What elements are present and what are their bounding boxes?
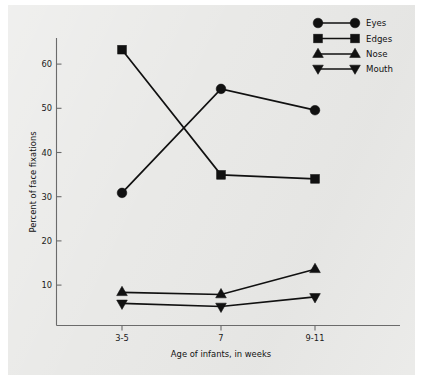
series-eyes bbox=[117, 84, 320, 198]
triangle-down-marker bbox=[117, 300, 128, 309]
y-tick-label: 50 bbox=[41, 103, 52, 113]
y-tick-label: 30 bbox=[41, 192, 52, 202]
series-nose bbox=[117, 263, 321, 298]
legend-item-eyes[interactable]: Eyes bbox=[313, 18, 387, 28]
legend-item-mouth[interactable]: Mouth bbox=[313, 64, 393, 74]
x-tick-label: 9-11 bbox=[306, 333, 325, 343]
triangle-up-marker bbox=[117, 286, 128, 295]
legend-label-eyes: Eyes bbox=[366, 18, 387, 28]
x-tick-label: 7 bbox=[218, 333, 223, 343]
square-marker bbox=[311, 175, 320, 184]
square-marker bbox=[118, 45, 127, 54]
legend-label-nose: Nose bbox=[366, 49, 387, 59]
legend-item-nose[interactable]: Nose bbox=[313, 48, 388, 59]
legend-item-edges[interactable]: Edges bbox=[314, 34, 393, 44]
series-edges-line bbox=[122, 50, 315, 179]
y-tick-group: 10 20 30 40 50 60 bbox=[41, 59, 61, 290]
x-axis-title: Age of infants, in weeks bbox=[171, 349, 271, 359]
circle-marker bbox=[310, 105, 320, 115]
triangle-up-marker bbox=[350, 48, 361, 57]
square-marker bbox=[314, 34, 323, 43]
circle-marker bbox=[216, 84, 226, 94]
triangle-down-marker bbox=[216, 303, 227, 312]
circle-marker bbox=[350, 18, 360, 28]
circle-marker bbox=[117, 188, 127, 198]
triangle-up-marker bbox=[310, 263, 321, 272]
x-tick-group: 3-5 7 9-11 bbox=[115, 326, 324, 344]
series-nose-line bbox=[122, 269, 315, 294]
square-marker bbox=[217, 171, 226, 180]
axes-group bbox=[57, 38, 401, 326]
line-chart: 10 20 30 40 50 60 3-5 7 9-11 Age of infa… bbox=[0, 0, 423, 384]
circle-marker bbox=[313, 18, 323, 28]
triangle-up-marker bbox=[313, 48, 324, 57]
triangle-down-marker bbox=[310, 294, 321, 303]
y-tick-label: 10 bbox=[41, 280, 52, 290]
y-tick-label: 40 bbox=[41, 148, 52, 158]
legend-label-edges: Edges bbox=[366, 34, 393, 44]
square-marker bbox=[351, 34, 360, 43]
x-tick-label: 3-5 bbox=[115, 333, 129, 343]
figure-root: 10 20 30 40 50 60 3-5 7 9-11 Age of infa… bbox=[0, 0, 423, 384]
chart-legend: Eyes Edges Nose Mouth bbox=[313, 18, 393, 74]
legend-label-mouth: Mouth bbox=[366, 64, 393, 74]
series-edges bbox=[118, 45, 320, 183]
y-tick-label: 20 bbox=[41, 236, 52, 246]
y-axis-title: Percent of face fixations bbox=[28, 131, 38, 232]
y-tick-label: 60 bbox=[41, 59, 52, 69]
